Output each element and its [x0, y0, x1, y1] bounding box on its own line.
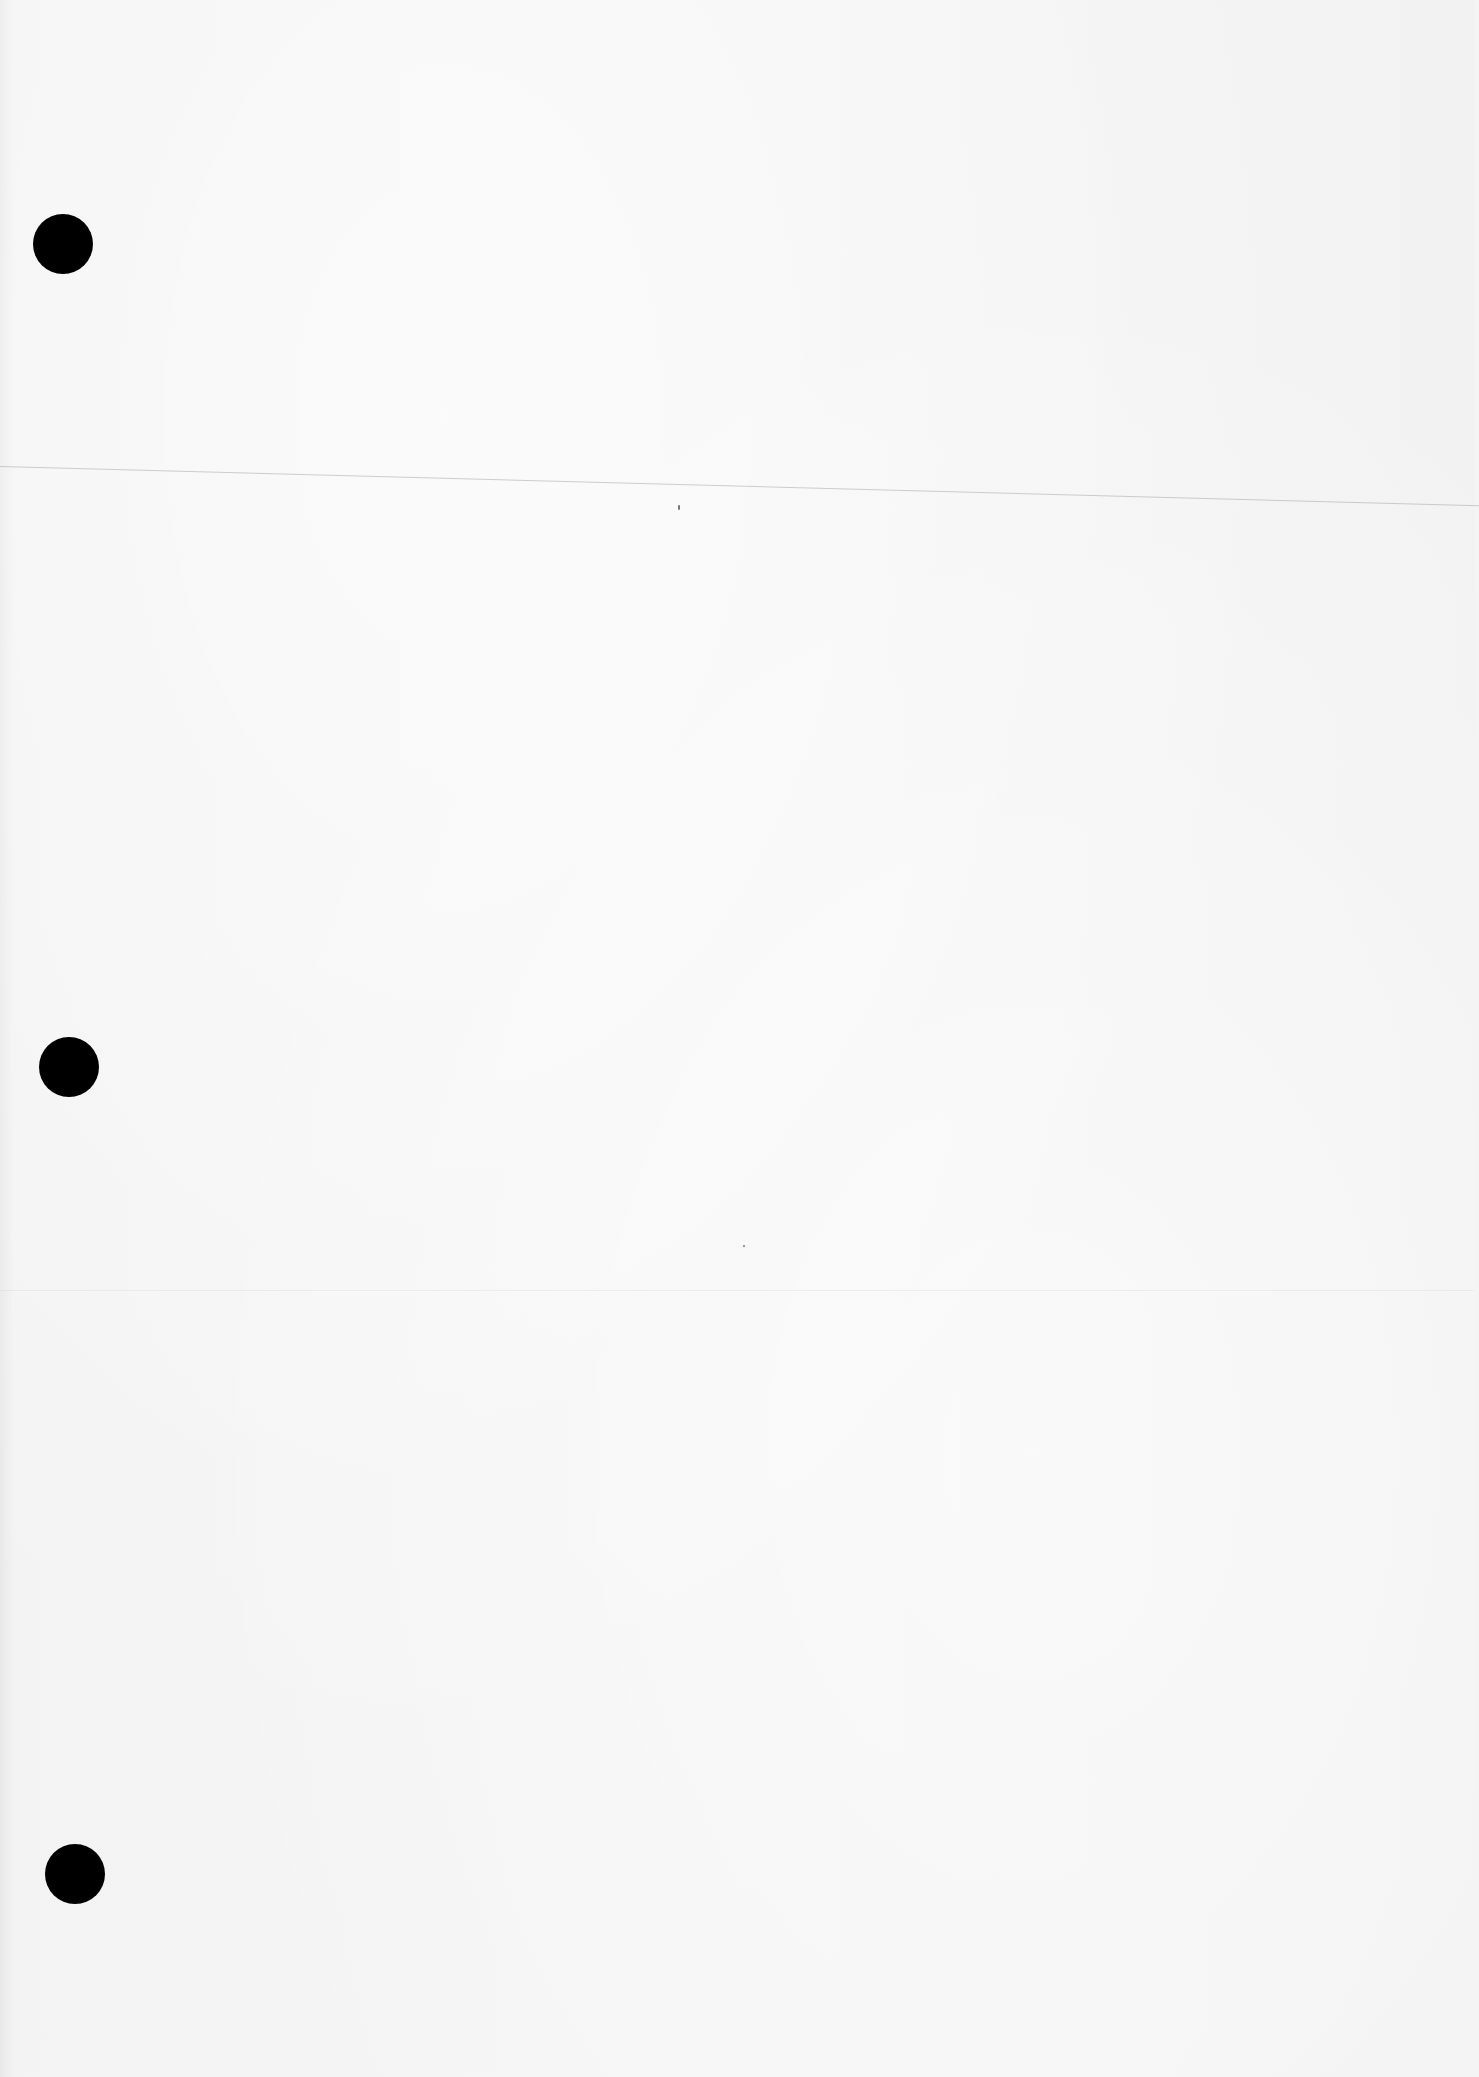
paper-speck	[743, 1245, 745, 1247]
paper-speck	[678, 505, 680, 510]
faint-crease	[0, 1290, 1474, 1291]
fold-line	[0, 466, 1479, 506]
punch-hole-bottom	[45, 1844, 105, 1904]
punch-hole-middle	[39, 1037, 99, 1097]
punch-hole-top	[33, 214, 93, 274]
